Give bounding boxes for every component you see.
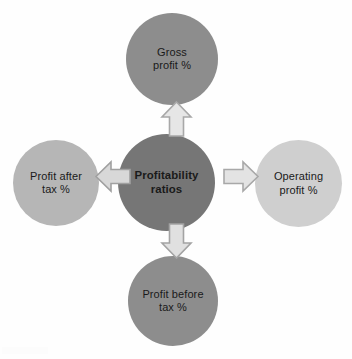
node-gross-profit[interactable]: Gross profit % xyxy=(126,13,218,105)
node-operating-profit[interactable]: Operating profit % xyxy=(255,140,342,227)
node-profitability-ratios-label: Profitability ratios xyxy=(129,169,205,197)
arrow-left-icon xyxy=(94,160,132,193)
arrow-right-icon xyxy=(222,160,260,193)
node-profit-after-tax[interactable]: Profit after tax % xyxy=(13,140,99,226)
arrow-down-icon xyxy=(160,222,193,260)
node-operating-profit-label: Operating profit % xyxy=(268,170,329,197)
node-profitability-ratios[interactable]: Profitability ratios xyxy=(118,134,215,231)
profitability-ratios-diagram: Gross profit % Profit after tax % Operat… xyxy=(0,0,352,359)
scan-artifact xyxy=(2,347,48,354)
node-profit-after-tax-label: Profit after tax % xyxy=(24,170,88,197)
node-profit-before-tax[interactable]: Profit before tax % xyxy=(128,256,218,346)
node-gross-profit-label: Gross profit % xyxy=(147,46,197,73)
arrow-up-icon xyxy=(160,100,193,138)
node-profit-before-tax-label: Profit before tax % xyxy=(136,288,209,315)
